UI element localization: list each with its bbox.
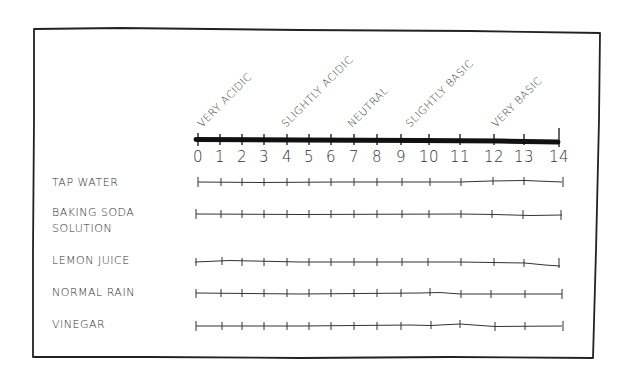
sample-row-tap-water: TAP WATER [52,176,563,189]
sample-line[interactable] [198,181,562,183]
ph-scale-diagram: VERY ACIDIC SLIGHTLY ACIDIC NEUTRAL SLIG… [0,0,631,380]
tick-label-12: 12 [484,148,504,166]
sample-label: NORMAL RAIN [52,286,135,299]
sample-label-line-2: SOLUTION [52,222,112,235]
tick-label-1: 1 [215,148,225,166]
region-label-neutral: NEUTRAL [345,84,390,129]
sample-label: LEMON JUICE [52,254,130,267]
sample-label: VINEGAR [52,318,105,331]
tick-label-11: 11 [450,148,470,166]
sample-line[interactable] [196,293,562,295]
frame-border [33,28,600,358]
tick-label-2: 2 [237,148,247,166]
tick-label-0: 0 [193,148,203,166]
tick-label-13: 13 [514,148,534,166]
tick-label-6: 6 [326,148,336,166]
tick-label-7: 7 [349,148,359,166]
tick-label-4: 4 [282,148,292,166]
sample-label: TAP WATER [52,176,118,189]
tick-label-3: 3 [259,148,269,166]
tick-label-10: 10 [419,148,439,166]
ph-number-labels: 0 1 2 3 4 5 6 7 8 9 10 11 12 13 14 [193,148,569,166]
sample-row-vinegar: VINEGAR [52,318,563,331]
region-labels: VERY ACIDIC SLIGHTLY ACIDIC NEUTRAL SLIG… [195,53,544,129]
sample-line[interactable] [196,214,562,216]
region-label-very-acidic: VERY ACIDIC [195,70,254,129]
sample-row-lemon-juice: LEMON JUICE [52,254,560,268]
ph-scale-bar [196,128,559,147]
sample-rows: TAP WATER BAKING SODA SOLUTION [52,176,563,331]
region-label-very-basic: VERY BASIC [489,74,544,129]
tick-label-9: 9 [396,148,406,166]
region-label-slightly-acidic: SLIGHTLY ACIDIC [279,53,355,129]
sample-line[interactable] [196,324,562,327]
sample-label-line-1: BAKING SODA [52,206,134,219]
tick-label-14: 14 [549,148,569,166]
tick-label-5: 5 [304,148,314,166]
sample-row-baking-soda-solution: BAKING SODA SOLUTION [52,206,562,235]
tick-label-8: 8 [372,148,382,166]
sample-row-normal-rain: NORMAL RAIN [52,286,562,299]
region-label-slightly-basic: SLIGHTLY BASIC [403,57,475,129]
